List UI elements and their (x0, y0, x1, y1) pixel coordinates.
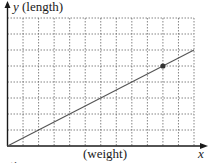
grid-lines (8, 18, 195, 146)
y-axis-label: y (length) (13, 0, 63, 15)
y-axis-label-text: (length) (19, 0, 63, 14)
data-points (160, 63, 165, 68)
highlighted-point (160, 63, 165, 68)
clipped-caption: ration (0, 158, 60, 163)
axes (5, 1, 209, 149)
clipped-caption-text: ration (0, 158, 30, 163)
y-axis-arrow-icon (5, 1, 11, 8)
x-axis-label: (weight) (83, 146, 127, 162)
chart-canvas (0, 0, 209, 163)
x-axis-variable: x (198, 146, 204, 162)
